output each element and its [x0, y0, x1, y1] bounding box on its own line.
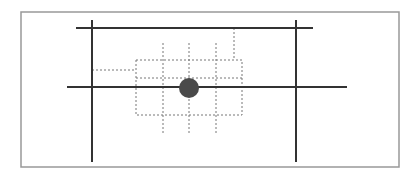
center-marker: [179, 78, 199, 98]
diagram-canvas: [0, 0, 419, 172]
diagram-frame: [21, 12, 399, 167]
